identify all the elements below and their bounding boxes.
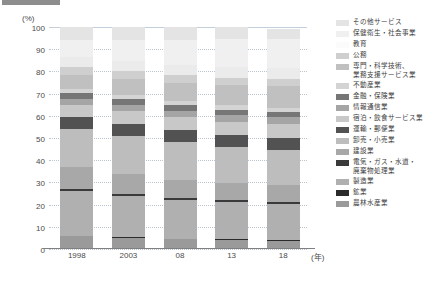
y-axis-tick-label: 20 <box>36 201 49 210</box>
x-axis-tick-label: 18 <box>279 251 288 260</box>
gridline: 0 <box>49 249 307 250</box>
legend-swatch <box>336 179 349 185</box>
legend-label: 鉱業 <box>353 188 367 197</box>
bar-segment <box>215 135 248 147</box>
bar-segment <box>112 124 145 136</box>
y-axis-tick-label: 80 <box>36 68 49 77</box>
legend-label: 農林水産業 <box>353 199 388 208</box>
legend-item: 宿泊・飲食サービス業 <box>336 114 432 123</box>
legend-label: 卸売・小売業 <box>353 136 395 145</box>
legend-swatch <box>336 138 349 144</box>
bar-group <box>49 27 307 249</box>
bar-segment <box>267 117 300 124</box>
bar-segment <box>112 111 145 123</box>
bar-segment <box>164 65 197 76</box>
bar-segment <box>60 191 93 235</box>
bar-segment <box>267 138 300 150</box>
y-axis-tick-label: 60 <box>36 112 49 121</box>
bar-segment <box>215 27 248 39</box>
bar-segment <box>112 136 145 174</box>
bar-segment <box>112 174 145 194</box>
legend-item: 不動産業 <box>336 81 432 90</box>
bar-segment <box>164 40 197 64</box>
x-axis-baseline <box>43 248 315 249</box>
legend-swatch <box>336 160 349 166</box>
legend-swatch <box>336 190 349 196</box>
legend-label: 教育 <box>353 40 367 49</box>
legend-item: 専門・科学技術、 業務支援サービス業 <box>336 62 432 79</box>
scan-artifact-bar <box>2 0 60 5</box>
bar-segment <box>164 180 197 198</box>
bar-segment <box>267 86 300 107</box>
legend-label: 宿泊・飲食サービス業 <box>353 114 423 123</box>
bar-segment <box>215 115 248 122</box>
legend-label: 情報通信業 <box>353 103 388 112</box>
legend-item: 製造業 <box>336 177 432 186</box>
legend-swatch <box>336 31 349 37</box>
bar-segment <box>215 78 248 85</box>
legend-swatch <box>336 116 349 122</box>
y-axis-tick-label: 90 <box>36 46 49 55</box>
legend-swatch <box>336 64 349 70</box>
bar-segment <box>267 124 300 137</box>
bar-segment <box>112 79 145 95</box>
legend-swatch <box>336 20 349 26</box>
stacked-bar-chart: (%) 0102030405060708090100 1998200308131… <box>0 0 433 285</box>
y-axis-tick-label: 40 <box>36 157 49 166</box>
legend-item: 農林水産業 <box>336 199 432 208</box>
plot-area: 0102030405060708090100 19982003081318 (年… <box>49 27 307 249</box>
legend-label: 金融・保険業 <box>353 92 395 101</box>
legend-swatch <box>336 83 349 89</box>
legend-label: 専門・科学技術、 業務支援サービス業 <box>353 62 416 79</box>
legend-item: 公務 <box>336 51 432 60</box>
bar-segment <box>164 75 197 83</box>
bar-segment <box>60 75 93 89</box>
bar-segment <box>267 185 300 201</box>
bar-segment <box>215 183 248 200</box>
bar-segment <box>267 68 300 79</box>
bar-segment <box>215 202 248 239</box>
bar-segment <box>215 147 248 183</box>
legend-swatch <box>336 105 349 111</box>
legend-label: 公務 <box>353 51 367 60</box>
bar-segment <box>60 27 93 40</box>
legend-item: 建設業 <box>336 147 432 156</box>
legend-swatch <box>336 42 349 48</box>
bar-segment <box>215 85 248 105</box>
legend-swatch <box>336 94 349 100</box>
bar-segment <box>164 27 197 40</box>
bar-segment <box>60 117 93 129</box>
bar-segment <box>164 83 197 101</box>
legend-item: 金融・保険業 <box>336 92 432 101</box>
bar-segment <box>164 200 197 239</box>
bar-segment <box>164 142 197 179</box>
x-axis-unit-label: (年) <box>311 251 324 262</box>
bar-segment <box>60 236 93 248</box>
y-axis-tick-label: 30 <box>36 179 49 188</box>
y-axis-tick-label: 10 <box>36 223 49 232</box>
legend-label: 運輸・郵便業 <box>353 125 395 134</box>
y-axis-unit-label: (%) <box>22 14 34 23</box>
bar-segment <box>267 79 300 86</box>
bar-segment <box>267 150 300 186</box>
bar-segment <box>60 67 93 75</box>
bar-08 <box>164 27 197 249</box>
y-axis-tick-label: 100 <box>32 24 49 33</box>
legend-item: 電気・ガス・水道・ 廃棄物処理業 <box>336 158 432 175</box>
bar-segment <box>112 40 145 60</box>
bar-segment <box>60 105 93 117</box>
chart-legend: その他サービス保健衛生・社会事業教育公務専門・科学技術、 業務支援サービス業不動… <box>336 18 432 210</box>
bar-18 <box>267 29 300 249</box>
bar-segment <box>267 204 300 240</box>
bar-segment <box>215 122 248 135</box>
legend-item: 運輸・郵便業 <box>336 125 432 134</box>
y-axis-tick-label: 0 <box>41 246 49 255</box>
x-axis-tick-label: 2003 <box>119 251 137 260</box>
legend-item: 情報通信業 <box>336 103 432 112</box>
bar-segment <box>267 29 300 38</box>
x-axis-tick-label: 13 <box>227 251 236 260</box>
bar-segment <box>112 27 145 40</box>
legend-item: 保健衛生・社会事業 <box>336 29 432 38</box>
legend-label: 電気・ガス・水道・ 廃棄物処理業 <box>353 158 416 175</box>
bar-segment <box>267 39 300 68</box>
